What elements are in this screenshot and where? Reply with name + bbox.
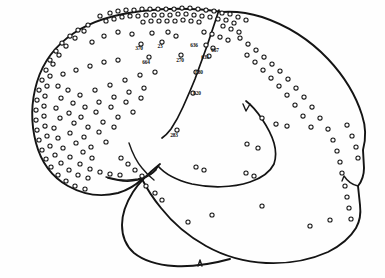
stimulation-point bbox=[61, 146, 65, 150]
stimulation-point bbox=[160, 13, 164, 17]
stimulation-point bbox=[246, 42, 250, 46]
stimulation-point bbox=[34, 108, 38, 112]
stimulation-point bbox=[108, 172, 112, 176]
stimulation-point bbox=[71, 101, 75, 105]
label-620: 620 bbox=[193, 90, 201, 96]
stimulation-point-marker bbox=[204, 43, 208, 47]
stimulation-point bbox=[238, 36, 242, 40]
stimulation-point bbox=[347, 206, 351, 210]
central-sulcus bbox=[162, 10, 219, 138]
stimulation-point bbox=[86, 125, 90, 129]
stimulation-point bbox=[194, 165, 198, 169]
stimulation-point bbox=[94, 110, 98, 114]
stimulation-point bbox=[173, 19, 177, 23]
stimulation-point bbox=[72, 121, 76, 125]
stimulation-point bbox=[286, 77, 290, 81]
stimulation-point bbox=[335, 149, 339, 153]
labeled-stimulation-point: 667 bbox=[211, 46, 219, 53]
stimulation-point bbox=[164, 7, 168, 11]
stimulation-point bbox=[254, 48, 258, 52]
stimulation-point bbox=[116, 9, 120, 13]
stimulation-point bbox=[56, 136, 60, 140]
stimulation-point bbox=[218, 35, 222, 39]
stimulation-point bbox=[140, 174, 144, 178]
stimulation-point bbox=[90, 156, 94, 160]
labeled-stimulation-point: 636 bbox=[190, 42, 208, 48]
stimulation-point bbox=[260, 116, 264, 120]
stimulation-point bbox=[76, 173, 80, 177]
stimulation-point bbox=[127, 90, 131, 94]
stimulation-point bbox=[68, 155, 72, 159]
labeled-stimulation-point: 620 bbox=[191, 90, 201, 96]
stimulation-point bbox=[153, 191, 157, 195]
stimulation-point bbox=[350, 134, 354, 138]
stimulation-point bbox=[56, 173, 60, 177]
stimulation-point bbox=[256, 146, 260, 150]
stimulation-point bbox=[88, 64, 92, 68]
label-667: 667 bbox=[211, 47, 219, 53]
label-633: 633 bbox=[201, 54, 209, 60]
stimulation-point bbox=[133, 168, 137, 172]
stimulation-point bbox=[131, 110, 135, 114]
stimulation-point bbox=[197, 20, 201, 24]
label-23: 23 bbox=[157, 43, 163, 49]
stimulation-point bbox=[156, 7, 160, 11]
stimulation-point bbox=[82, 135, 86, 139]
stimulation-point bbox=[74, 141, 78, 145]
stimulation-point bbox=[221, 24, 225, 28]
stimulation-point bbox=[309, 125, 313, 129]
stimulation-point bbox=[124, 100, 128, 104]
stimulation-point bbox=[150, 31, 154, 35]
stimulation-point bbox=[68, 34, 72, 38]
stimulation-point bbox=[48, 58, 52, 62]
label-283: 283 bbox=[170, 132, 178, 138]
stimulation-point bbox=[98, 14, 102, 18]
stimulation-point bbox=[64, 179, 68, 183]
stimulation-point bbox=[200, 14, 204, 18]
labeled-stimulation-point: 270 bbox=[176, 53, 184, 63]
stimulation-point bbox=[108, 83, 112, 87]
stimulation-point bbox=[116, 115, 120, 119]
stimulation-point bbox=[64, 44, 68, 48]
stimulation-point bbox=[220, 11, 224, 15]
stimulation-point bbox=[83, 187, 87, 191]
stimulation-point bbox=[40, 148, 44, 152]
labeled-stimulation-point: 680 bbox=[194, 69, 203, 75]
stimulation-point bbox=[54, 106, 58, 110]
labeled-stimulation-point: 23 bbox=[157, 40, 164, 49]
stimulation-points-layer bbox=[34, 6, 360, 228]
stimulation-point bbox=[126, 162, 130, 166]
stimulation-point bbox=[97, 100, 101, 104]
stimulation-point bbox=[140, 7, 144, 11]
stimulation-point bbox=[253, 60, 257, 64]
stimulation-point bbox=[104, 19, 108, 23]
stimulation-point bbox=[160, 198, 164, 202]
stimulation-point bbox=[37, 138, 41, 142]
stimulation-point bbox=[49, 165, 53, 169]
stimulation-point bbox=[301, 114, 305, 118]
stimulation-point bbox=[112, 17, 116, 21]
stimulation-point bbox=[331, 138, 335, 142]
stimulation-point bbox=[67, 168, 71, 172]
stimulation-point bbox=[208, 15, 212, 19]
stimulation-point bbox=[245, 142, 249, 146]
stimulation-point bbox=[40, 78, 44, 82]
stimulation-point bbox=[37, 88, 41, 92]
label-270: 270 bbox=[176, 57, 184, 63]
stimulation-point bbox=[48, 144, 52, 148]
stimulation-point bbox=[73, 184, 77, 188]
stimulation-point bbox=[166, 30, 170, 34]
stimulation-point bbox=[252, 174, 256, 178]
stimulation-point bbox=[157, 19, 161, 23]
stimulation-point bbox=[196, 7, 200, 11]
stimulation-point bbox=[149, 19, 153, 23]
stimulation-point bbox=[48, 74, 52, 78]
stimulation-point bbox=[285, 93, 289, 97]
stimulation-point bbox=[212, 9, 216, 13]
stimulation-point bbox=[128, 14, 132, 18]
stimulation-point bbox=[109, 105, 113, 109]
stimulation-point bbox=[210, 32, 214, 36]
labeled-stimulation-point: 370 bbox=[135, 42, 143, 51]
stimulation-point bbox=[97, 130, 101, 134]
stimulation-point bbox=[204, 8, 208, 12]
